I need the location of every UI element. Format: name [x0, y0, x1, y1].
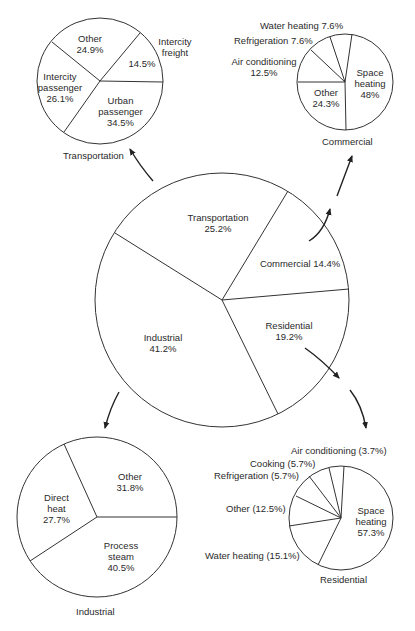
transport-caption: Transportation [63, 150, 124, 161]
industrial-caption: Industrial [76, 606, 115, 617]
arrow-to-transportation [130, 149, 153, 181]
arrow-to-industrial [105, 392, 119, 428]
transport-label-freight-pct: 14.5% [122, 58, 162, 69]
industrial-label-other: Other 31.8% [105, 471, 155, 493]
residential-label-space-heating: Space heating 57.3% [350, 505, 392, 538]
transport-label-urban: Urban passenger 34.5% [93, 95, 148, 128]
arrow-to-residential-b [350, 390, 366, 428]
residential-label-other: Other (12.5%) [226, 503, 286, 514]
commercial-caption: Commercial [322, 136, 373, 147]
commercial-label-other: Other 24.3% [307, 87, 345, 109]
residential-caption: Residential [320, 574, 367, 585]
arrow-to-commercial-a [309, 209, 330, 241]
main-label-residential: Residential 19.2% [254, 320, 324, 342]
industrial-label-process-steam: Process steam 40.5% [96, 540, 146, 573]
residential-label-water-heating: Water heating (15.1%) [205, 550, 300, 561]
transport-label-intercity-passenger: Intercity passenger 26.1% [35, 71, 85, 104]
main-label-industrial: Industrial 41.2% [128, 332, 198, 354]
industrial-label-direct-heat: Direct heat 27.7% [34, 492, 79, 525]
arrow-to-residential-a [305, 348, 339, 378]
residential-label-air-conditioning: Air conditioning (3.7%) [291, 445, 387, 456]
residential-label-cooking: Cooking (5.7%) [250, 458, 315, 469]
arrow-to-commercial-b [337, 156, 352, 196]
transport-label-freight-name: Intercity freight [150, 36, 200, 58]
main-label-transportation: Transportation 25.2% [168, 212, 268, 234]
residential-label-refrigeration: Refrigeration (5.7%) [214, 470, 299, 481]
commercial-label-refrigeration: Refrigeration 7.6% [234, 35, 313, 46]
commercial-label-air-conditioning: Air conditioning 12.5% [230, 56, 298, 78]
main-label-commercial: Commercial 14.4% [250, 258, 350, 269]
commercial-label-space-heating: Space heating 48% [350, 67, 390, 100]
commercial-label-water-heating: Water heating 7.6% [260, 20, 343, 31]
transport-label-other: Other 24.9% [60, 33, 120, 55]
